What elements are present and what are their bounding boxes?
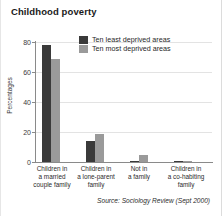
x-tick-label-co-habiting: Children in a co-habiting family — [160, 165, 212, 190]
x-tick-line: a co-habiting — [160, 173, 212, 181]
x-tick-label-married-couple: Children in a married couple family — [27, 165, 77, 190]
legend-label-most-deprived: Ten most deprived areas — [92, 45, 171, 53]
bar-most-deprived-married-couple[interactable] — [51, 59, 60, 163]
bar-least-deprived-married-couple[interactable] — [42, 45, 51, 162]
x-tick-line: a married — [27, 173, 77, 181]
gridline-60 — [36, 72, 212, 73]
y-tick-label-80: 80 — [5, 39, 31, 46]
x-tick-line: Children in — [71, 165, 121, 173]
x-tick-label-lone-parent: Children in a lone-parent family — [71, 165, 121, 190]
legend-label-least-deprived: Ten least deprived areas — [92, 36, 170, 44]
bar-least-deprived-lone-parent[interactable] — [86, 141, 95, 162]
bar-most-deprived-lone-parent[interactable] — [95, 134, 104, 163]
bar-least-deprived-co-habiting[interactable] — [174, 161, 183, 162]
chart-page: Childhood poverty 80 60 40 20 0 Percenta… — [0, 0, 222, 216]
legend-swatch-icon-least-deprived — [79, 36, 88, 44]
plot-area — [36, 42, 212, 162]
legend-item-least-deprived[interactable]: Ten least deprived areas — [79, 36, 171, 44]
bar-most-deprived-co-habiting[interactable] — [183, 161, 192, 163]
x-tick-line: a lone-parent — [71, 173, 121, 181]
bar-most-deprived-not-in-family[interactable] — [139, 155, 148, 163]
chart-legend: Ten least deprived areas Ten most depriv… — [79, 36, 171, 53]
legend-item-most-deprived[interactable]: Ten most deprived areas — [79, 45, 171, 53]
x-tick-line: family — [160, 181, 212, 189]
x-tick-line: Children in — [160, 165, 212, 173]
y-axis-title: Percentages — [6, 66, 13, 126]
x-tick-line: Children in — [27, 165, 77, 173]
bar-least-deprived-not-in-family[interactable] — [130, 161, 139, 163]
legend-swatch-icon-most-deprived — [79, 45, 88, 53]
x-axis-tick-labels: Children in a married couple family Chil… — [36, 165, 214, 195]
x-tick-line: Not in — [117, 165, 161, 173]
gridline-20 — [36, 132, 212, 133]
x-tick-line: a family — [117, 173, 161, 181]
y-tick-label-20: 20 — [5, 129, 31, 136]
x-tick-line: family — [71, 181, 121, 189]
source-note: Source: Sociology Review (Sept 2000) — [97, 197, 210, 204]
x-axis-line — [35, 162, 213, 163]
x-tick-label-not-in-family: Not in a family — [117, 165, 161, 181]
x-tick-line: couple family — [27, 181, 77, 189]
gridline-40 — [36, 102, 212, 103]
